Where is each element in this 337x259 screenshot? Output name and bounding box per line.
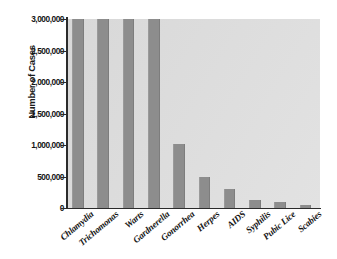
y-axis-tick-mark: [61, 82, 67, 83]
y-axis-tick-mark: [61, 145, 67, 146]
y-axis-tick-labels: 0500,0001,000,0001,500,0002,000,0002,500…: [6, 19, 64, 208]
y-axis-tick-label: 500,000: [6, 172, 64, 181]
y-axis-tick-label: 0: [6, 204, 64, 213]
y-axis-tick-label: 2,500,000: [6, 46, 64, 55]
y-axis-tick-mark: [61, 51, 67, 52]
y-axis-tick-label: 3,000,000: [6, 15, 64, 24]
bar: [249, 200, 261, 208]
y-axis-tick-label: 1,500,000: [6, 109, 64, 118]
bar: [97, 19, 109, 208]
bar-series: [67, 19, 320, 208]
bar: [274, 202, 286, 208]
bar: [300, 205, 312, 208]
x-axis-tick-labels: ChlamydiaTrichomonasWartsGardnerellaGono…: [67, 209, 320, 259]
y-axis-tick-mark: [61, 114, 67, 115]
bar: [123, 19, 135, 208]
bar: [72, 19, 84, 208]
bar-chart-figure: Number of Cases 0500,0001,000,0001,500,0…: [0, 0, 337, 259]
y-axis-tick-mark: [61, 177, 67, 178]
bar: [199, 177, 211, 209]
y-axis-tick-label: 1,000,000: [6, 141, 64, 150]
y-axis-tick-mark: [61, 19, 67, 20]
bar: [148, 19, 160, 208]
x-axis-tick-label: Chlamydia: [0, 209, 95, 259]
bar: [224, 189, 236, 208]
y-axis-tick-label: 2,000,000: [6, 78, 64, 87]
bar: [173, 144, 185, 208]
y-axis-tick-mark: [61, 208, 67, 209]
